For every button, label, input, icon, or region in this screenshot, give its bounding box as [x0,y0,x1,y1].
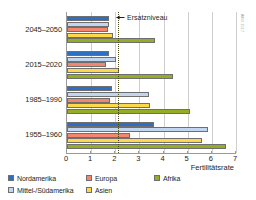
bar [67,62,106,67]
fertility-rate-bar-chart: 2045–20502015–20201985–19901955–1960 Ers… [0,0,256,200]
tick-label: 1 [88,154,92,163]
arrow-left-icon [116,14,125,21]
legend-swatch-icon [86,175,92,181]
category-label: 1955–1960 [0,130,62,139]
bar [67,74,173,79]
legend-label: Afrika [163,175,180,182]
legend-swatch-icon [86,187,92,193]
bar [67,109,190,114]
source-credit: AKG 1517 [240,14,244,32]
bar [67,138,202,143]
legend-label: Nordamerika [17,175,56,182]
bar [67,33,113,38]
bar [67,27,108,32]
bar-group [67,122,236,149]
bar-group [67,86,236,113]
tick-label: 5 [185,154,189,163]
bar [67,122,154,127]
legend-item[interactable]: Afrika [154,175,220,182]
legend-item[interactable]: Asien [86,187,154,194]
legend-item[interactable]: Mittel-/Südamerika [8,187,86,194]
legend-label: Mittel-/Südamerika [17,187,74,194]
legend: NordamerikaEuropaAfrikaMittel-/Südamerik… [8,172,248,196]
replacement-level-annotation: Ersatzniveau [116,14,167,21]
bar [67,103,150,108]
category-axis-labels: 2045–20502015–20201985–19901955–1960 [0,12,62,153]
tick-label: 6 [209,154,213,163]
legend-label: Asien [95,187,112,194]
legend-swatch-icon [8,175,14,181]
x-axis-title: Fertilitätsrate [0,163,234,172]
legend-item[interactable]: Europa [86,175,154,182]
bar-group [67,51,236,78]
legend-swatch-icon [154,175,160,181]
bar [67,57,116,62]
gridline [236,12,237,153]
bar [67,16,109,21]
bar [67,22,109,27]
legend-label: Europa [95,175,117,182]
legend-swatch-icon [8,187,14,193]
bar [67,92,149,97]
bar [67,86,112,91]
bar [67,127,208,132]
tick-label: 0 [64,154,68,163]
bar [67,133,130,138]
bar [67,98,110,103]
category-label: 1985–1990 [0,95,62,104]
plot-area [66,12,236,154]
category-label: 2045–2050 [0,25,62,34]
bar [67,38,155,43]
legend-item[interactable]: Nordamerika [8,175,86,182]
replacement-level-label: Ersatzniveau [127,14,167,21]
bar [67,51,109,56]
tick-label: 7 [233,154,237,163]
category-label: 2015–2020 [0,60,62,69]
replacement-level-line [118,12,119,153]
bar [67,144,226,149]
bar [67,68,119,73]
tick-label: 3 [136,154,140,163]
tick-label: 2 [112,154,116,163]
tick-label: 4 [160,154,164,163]
